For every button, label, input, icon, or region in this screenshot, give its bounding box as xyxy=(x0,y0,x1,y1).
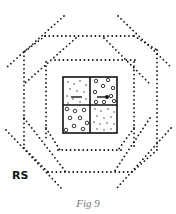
figure-label: RS xyxy=(12,169,28,182)
center-grid xyxy=(63,77,117,133)
figure-caption: Fig 9 xyxy=(0,197,176,209)
